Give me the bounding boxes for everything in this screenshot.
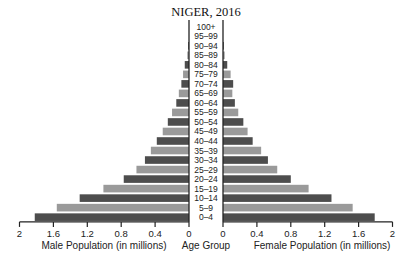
age-label: 0–4 — [199, 212, 213, 222]
male-bar-15–19 — [103, 185, 189, 193]
male-bar-50–54 — [168, 118, 189, 126]
female-bar-65–69 — [223, 90, 232, 98]
female-bar-25–29 — [223, 166, 277, 174]
female-axis-label: Female Population (in millions) — [254, 240, 391, 251]
male-bar-5–9 — [57, 204, 189, 212]
female-bar-20–24 — [223, 175, 291, 183]
population-pyramid-chart: NIGER, 2016 100+95–9990–9485–8980–8475–7… — [0, 0, 415, 264]
age-label: 90–94 — [194, 41, 218, 51]
male-bar-20–24 — [124, 175, 189, 183]
female-bar-55–59 — [223, 109, 238, 117]
age-label: 25–29 — [194, 165, 218, 175]
male-bar-30–34 — [145, 156, 189, 164]
chart-title: NIGER, 2016 — [171, 5, 240, 19]
tick-label: 1.2 — [81, 228, 94, 239]
female-bar-70–74 — [223, 80, 233, 88]
tick-label: 0.4 — [148, 228, 161, 239]
age-label: 35–39 — [194, 146, 218, 156]
age-label: 65–69 — [194, 88, 218, 98]
age-label: 85–89 — [194, 50, 218, 60]
age-label: 50–54 — [194, 117, 218, 127]
female-bar-30–34 — [223, 156, 268, 164]
age-group-labels: 100+95–9990–9485–8980–8475–7970–7465–696… — [194, 22, 218, 222]
age-label: 95–99 — [194, 31, 218, 41]
age-label: 55–59 — [194, 107, 218, 117]
tick-label: 0.8 — [284, 228, 297, 239]
male-bar-35–39 — [151, 147, 189, 155]
age-label: 60–64 — [194, 98, 218, 108]
male-bar-10–14 — [80, 194, 189, 202]
male-bar-75–79 — [183, 71, 189, 79]
tick-label: 1.6 — [47, 228, 60, 239]
male-bar-45–49 — [163, 128, 189, 136]
male-bar-60–64 — [176, 99, 189, 107]
tick-label: 0.8 — [115, 228, 128, 239]
female-bar-60–64 — [223, 99, 235, 107]
female-bar-75–79 — [223, 71, 231, 79]
age-label: 20–24 — [194, 174, 218, 184]
male-bar-0–4 — [35, 213, 189, 221]
tick-label: 0 — [220, 228, 225, 239]
axis-ticks: 21.61.20.80.4000.40.81.21.62 — [17, 222, 395, 239]
male-bar-70–74 — [181, 80, 189, 88]
female-bar-10–14 — [223, 194, 331, 202]
tick-label: 1.2 — [318, 228, 331, 239]
male-axis-label: Male Population (in millions) — [41, 240, 166, 251]
female-bar-5–9 — [223, 204, 353, 212]
tick-label: 2 — [17, 228, 22, 239]
age-label: 5–9 — [199, 203, 213, 213]
female-bar-15–19 — [223, 185, 309, 193]
age-label: 30–34 — [194, 155, 218, 165]
age-label: 15–19 — [194, 184, 218, 194]
male-bar-55–59 — [172, 109, 189, 117]
age-label: 10–14 — [194, 193, 218, 203]
male-bar-65–69 — [179, 90, 189, 98]
female-bars — [223, 42, 375, 221]
tick-label: 1.6 — [352, 228, 365, 239]
age-label: 100+ — [196, 22, 215, 32]
age-label: 40–44 — [194, 136, 218, 146]
male-bar-40–44 — [157, 137, 189, 145]
female-bar-50–54 — [223, 118, 243, 126]
age-label: 80–84 — [194, 60, 218, 70]
age-label: 45–49 — [194, 126, 218, 136]
female-bar-40–44 — [223, 137, 253, 145]
female-bar-0–4 — [223, 213, 375, 221]
female-bar-35–39 — [223, 147, 261, 155]
tick-label: 0 — [186, 228, 191, 239]
tick-label: 2 — [390, 228, 395, 239]
female-bar-45–49 — [223, 128, 248, 136]
age-group-axis-label: Age Group — [182, 240, 231, 251]
male-bar-25–29 — [136, 166, 189, 174]
age-label: 70–74 — [194, 79, 218, 89]
male-bars — [35, 42, 189, 221]
tick-label: 0.4 — [250, 228, 263, 239]
age-label: 75–79 — [194, 69, 218, 79]
